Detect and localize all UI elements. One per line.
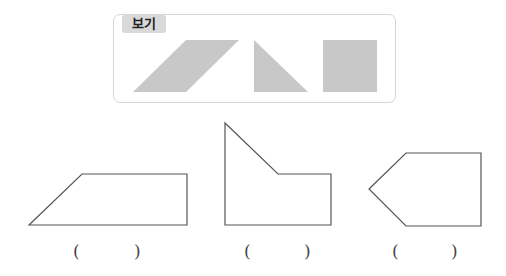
answer-close-paren-3: ) — [451, 241, 458, 261]
example-triangle — [254, 40, 308, 92]
answer-close-paren-1: ) — [134, 241, 141, 261]
problem-shape-1 — [29, 174, 187, 225]
problem-shape-3 — [369, 153, 481, 226]
example-square — [323, 40, 377, 92]
answer-open-paren-2: ( — [244, 241, 251, 261]
answer-open-paren-3: ( — [392, 241, 399, 261]
answer-close-paren-2: ) — [304, 241, 311, 261]
example-parallelogram — [133, 40, 239, 92]
answer-open-paren-1: ( — [73, 241, 80, 261]
problem-shape-2 — [225, 123, 331, 225]
figures-canvas — [0, 0, 506, 276]
